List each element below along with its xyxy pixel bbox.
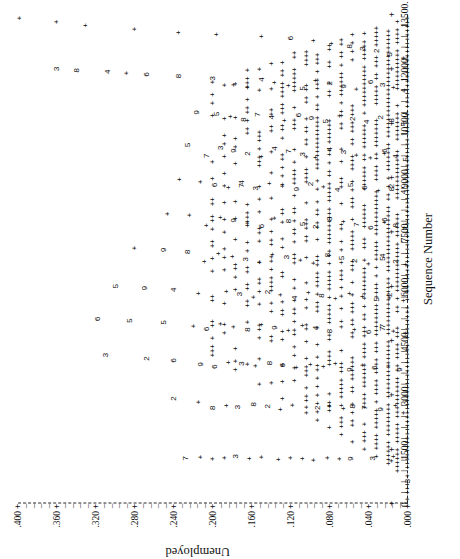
overplot-count: 4 (271, 146, 279, 151)
data-mark: + (361, 429, 369, 434)
data-mark: + (349, 216, 357, 221)
data-mark: + (349, 317, 357, 322)
data-mark: + (303, 297, 311, 302)
data-mark: + (373, 302, 381, 307)
data-mark: + (338, 71, 346, 76)
data-mark: + (268, 237, 276, 242)
overplot-count: 2 (312, 224, 320, 229)
data-mark: + (217, 321, 225, 326)
data-marks-layer: ++++++++++++++++++++++++++++++++++++++++… (18, 14, 408, 503)
data-mark: + (338, 247, 346, 252)
overplot-count: 6 (94, 316, 102, 321)
data-mark: + (232, 199, 240, 204)
y-minor-tick: — (69, 503, 77, 508)
data-mark: + (279, 299, 287, 304)
overplot-count: 6 (211, 364, 219, 369)
data-mark: + (338, 432, 346, 437)
overplot-count: 8 (285, 218, 293, 223)
y-minor-tick: — (37, 503, 45, 508)
data-mark: + (268, 309, 276, 314)
overplot-count: 3 (340, 149, 348, 154)
data-mark: + (258, 154, 266, 159)
data-mark: + (394, 422, 402, 427)
data-mark: + (256, 335, 264, 340)
data-mark: + (394, 111, 402, 116)
overplot-count: 7 (182, 455, 190, 460)
data-mark: + (349, 57, 357, 62)
data-mark: + (361, 30, 369, 35)
data-mark: + (394, 241, 402, 246)
data-mark: + (326, 59, 334, 64)
data-mark: + (279, 68, 287, 73)
data-mark: + (232, 136, 240, 141)
data-mark: + (213, 32, 221, 37)
data-mark: + (268, 267, 276, 272)
overplot-count: 4 (400, 88, 408, 93)
data-mark: + (326, 303, 334, 308)
data-mark: + (258, 454, 266, 459)
overplot-count: 7 (361, 405, 369, 410)
data-mark: + (373, 433, 381, 438)
data-mark: + (221, 301, 229, 306)
overplot-count: 9 (293, 186, 301, 191)
data-mark: + (291, 159, 299, 164)
overplot-count: 4 (379, 253, 387, 258)
data-mark: + (310, 38, 318, 43)
overplot-count: 4 (400, 189, 408, 194)
data-mark: + (227, 114, 235, 119)
data-mark: + (209, 197, 217, 202)
data-mark: + (291, 285, 299, 290)
y-minor-tick: — (279, 503, 287, 508)
y-minor-tick: — (388, 503, 396, 508)
data-mark: + (328, 41, 336, 46)
data-mark: + (303, 124, 311, 129)
overplot-count: 7 (285, 149, 293, 154)
overplot-count: 9 (160, 247, 168, 252)
x-axis-title: Sequence Number (421, 14, 436, 503)
data-mark: + (338, 268, 346, 273)
data-mark: + (320, 184, 328, 189)
data-mark: + (279, 307, 287, 312)
data-mark: + (256, 259, 264, 264)
data-mark: + (305, 290, 313, 295)
data-mark: + (277, 292, 285, 297)
y-axis-title: Unemployed (165, 544, 230, 559)
data-mark: + (209, 268, 217, 273)
overplot-count: 9 (193, 109, 201, 114)
data-mark: + (221, 200, 229, 205)
data-mark: + (349, 195, 357, 200)
data-mark: + (361, 446, 369, 451)
data-mark: + (338, 37, 346, 42)
overplot-count: 8 (240, 117, 248, 122)
data-mark: + (303, 385, 311, 390)
data-mark: + (314, 199, 322, 204)
data-mark: + (320, 364, 328, 369)
data-mark: + (402, 262, 410, 267)
data-mark: + (297, 257, 305, 262)
overplot-count: 4 (104, 69, 112, 74)
overplot-count: 6 (203, 326, 211, 331)
data-mark: + (361, 341, 369, 346)
overplot-count: 6 (287, 35, 295, 40)
data-mark: + (400, 298, 408, 303)
data-mark: + (131, 26, 139, 31)
data-mark: + (314, 94, 322, 99)
overplot-count: 3 (252, 185, 260, 190)
overplot-count: 4 (334, 187, 342, 192)
overplot-count: 2 (264, 289, 272, 294)
overplot-count: 6 (367, 225, 375, 230)
data-mark: + (373, 265, 381, 270)
data-mark: + (244, 210, 252, 215)
overplot-count: 3 (53, 66, 61, 71)
data-mark: + (361, 392, 369, 397)
overplot-count: 3 (217, 145, 225, 150)
data-mark: + (373, 164, 381, 169)
data-mark: + (268, 300, 276, 305)
data-mark: + (314, 342, 322, 347)
data-mark: + (303, 404, 311, 409)
data-mark: + (279, 173, 287, 178)
y-minor-tick: — (232, 503, 240, 508)
data-mark: + (256, 301, 264, 306)
overplot-count: 9 (340, 83, 348, 88)
y-minor-tick: — (271, 503, 279, 508)
